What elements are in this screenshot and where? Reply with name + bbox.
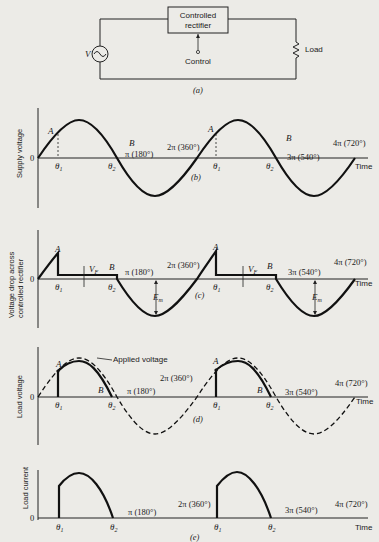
pi-label: π (180°)	[128, 507, 156, 517]
theta1-label: θ1	[55, 282, 62, 293]
pi-label: π (180°)	[127, 386, 155, 396]
theta2-label: θ2	[108, 161, 115, 172]
circuit-diagram: Controlled rectifier Control V Load (a)	[85, 7, 323, 95]
time-label: Time	[355, 523, 373, 532]
y-axis-label-line1: Voltage drop across	[7, 251, 16, 318]
theta1-label-2: θ1	[213, 400, 220, 411]
origin-label: 0	[30, 274, 34, 284]
applied-voltage-leader	[97, 358, 112, 360]
sine-wave-icon	[94, 52, 106, 57]
load-current-pulse-2	[217, 472, 271, 518]
four-pi-label: 4π (720°)	[335, 378, 368, 388]
wire-top-right	[228, 19, 296, 42]
control-arrow-icon	[196, 34, 200, 38]
point-a-dot	[56, 369, 59, 372]
point-a-label: A	[47, 126, 54, 136]
three-pi-label: 3π (540°)	[285, 505, 318, 515]
point-a-label-2: A	[212, 356, 219, 366]
figure-svg: Controlled rectifier Control V Load (a) …	[0, 0, 379, 542]
control-terminal-icon	[196, 50, 199, 53]
wire-top-left	[100, 19, 168, 46]
two-pi-label: 2π (360°)	[167, 260, 200, 270]
em-label: Em	[152, 292, 164, 303]
origin-label: 0	[30, 392, 34, 402]
three-pi-label: 3π (540°)	[288, 267, 321, 277]
load-label: Load	[305, 45, 323, 54]
y-axis-label-line2: controlled rectifier	[16, 258, 25, 318]
theta1-label: θ1	[55, 400, 62, 411]
four-pi-label: 4π (720°)	[335, 499, 368, 509]
caption-e: (e)	[190, 532, 200, 542]
panel-d-load-voltage: Load voltage 0 A A B B Applied voltage θ…	[15, 347, 374, 445]
y-axis-label: Supply voltage	[15, 129, 24, 178]
point-b-label-2: B	[286, 133, 292, 143]
time-label: Time	[355, 279, 373, 288]
origin-label: 0	[30, 513, 34, 523]
panel-b-supply-voltage: Supply voltage 0 A A B B θ1 θ2 θ1 θ2 π (…	[15, 108, 373, 208]
point-b-label-2: B	[267, 261, 273, 271]
em-label-2: Em	[311, 292, 323, 303]
vf-label: VF	[89, 264, 99, 275]
point-b-label: B	[129, 138, 135, 148]
theta1-label-2: θ1	[213, 161, 220, 172]
point-b-label: B	[109, 262, 115, 272]
theta1-label: θ1	[55, 161, 62, 172]
point-a-dot-2	[214, 368, 217, 371]
applied-voltage-label: Applied voltage	[113, 355, 168, 364]
theta1-label-2: θ1	[214, 522, 221, 533]
four-pi-label: 4π (720°)	[333, 138, 366, 148]
three-pi-label: 3π (540°)	[285, 387, 318, 397]
theta2-label-2: θ2	[266, 282, 273, 293]
point-a-label: A	[54, 244, 61, 254]
theta1-label-2: θ1	[213, 282, 220, 293]
pi-label: π (180°)	[125, 267, 153, 277]
rectifier-waveform-figure: Controlled rectifier Control V Load (a) …	[0, 0, 379, 542]
caption-c: (c)	[195, 290, 205, 300]
y-axis-label: Load voltage	[15, 375, 24, 418]
load-voltage-pulse-2	[216, 361, 271, 397]
time-label: Time	[355, 162, 373, 171]
load-voltage-pulse-1	[58, 361, 112, 397]
load-resistor-icon	[293, 42, 299, 60]
point-b-label: B	[98, 385, 104, 395]
rectifier-label-line2: rectifier	[185, 21, 212, 30]
load-current-pulse-1	[59, 473, 113, 518]
vf-label-2: VF	[248, 264, 258, 275]
three-pi-label: 3π (540°)	[287, 152, 320, 162]
caption-a: (a)	[193, 85, 203, 95]
theta2-label-2: θ2	[266, 161, 273, 172]
rectifier-label-line1: Controlled	[180, 11, 216, 20]
caption-d: (d)	[193, 414, 203, 424]
point-a-label-2: A	[212, 242, 219, 252]
two-pi-label: 2π (360°)	[160, 373, 193, 383]
point-a-label: A	[55, 359, 62, 369]
time-label: Time	[356, 397, 374, 406]
point-a-label-2: A	[207, 124, 214, 134]
theta2-label-2: θ2	[266, 400, 273, 411]
origin-label: 0	[30, 153, 34, 163]
em-arrow-down-icon	[154, 311, 158, 315]
point-b-label-2: B	[257, 385, 263, 395]
two-pi-label: 2π (360°)	[178, 499, 211, 509]
y-axis-label: Load current	[21, 466, 30, 509]
em-arrow-up-icon-2	[313, 280, 317, 284]
theta2-label: θ2	[110, 522, 117, 533]
source-label: V	[85, 49, 92, 59]
em-arrow-up-icon	[154, 280, 158, 284]
panel-e-load-current: Load current 0 θ1 θ2 θ1 θ2 π (180°) 2π (…	[21, 466, 373, 542]
pi-label: π (180°)	[125, 149, 153, 159]
four-pi-label: 4π (720°)	[334, 257, 367, 267]
control-label: Control	[185, 57, 211, 66]
theta1-label: θ1	[56, 522, 63, 533]
panel-c-rectifier-voltage-drop: Voltage drop across controlled rectifier…	[7, 230, 373, 328]
theta2-label: θ2	[108, 400, 115, 411]
theta2-label-2: θ2	[268, 522, 275, 533]
two-pi-label: 2π (360°)	[167, 142, 200, 152]
theta2-label: θ2	[108, 282, 115, 293]
em-arrow-down-icon-2	[313, 311, 317, 315]
caption-b: (b)	[191, 172, 201, 182]
